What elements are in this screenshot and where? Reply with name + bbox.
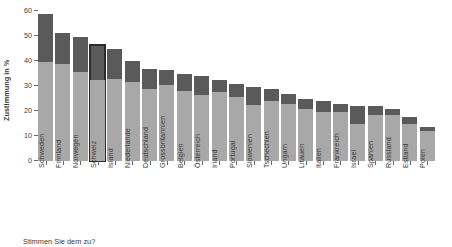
bar-segment-upper <box>350 106 365 124</box>
y-axis-tick: 30 <box>12 81 38 91</box>
y-axis-tick-label: 50 <box>24 31 32 41</box>
bar-segment-upper <box>142 69 157 89</box>
x-axis-tick-label: Niederlande <box>120 128 135 168</box>
plot-area <box>38 0 438 161</box>
x-axis-tick-label: Italien <box>311 148 326 168</box>
x-axis-tick-label: Norwegen <box>68 134 83 168</box>
x-axis-tick-label: Finnland <box>51 140 66 168</box>
x-axis-tick-label: Russland <box>381 137 396 168</box>
x-axis-tick-label: Slowenien <box>242 134 257 168</box>
x-axis-tick-label: Polen <box>415 149 430 168</box>
bar-segment-upper <box>264 89 279 102</box>
x-axis-tick-label: Israel <box>346 150 361 168</box>
x-axis-tick-label: Tschechien <box>259 131 274 168</box>
bar-segment-upper <box>316 101 331 112</box>
x-axis-tick-label: Österreich <box>190 134 205 168</box>
bar-segment-upper <box>73 37 88 72</box>
y-axis-tick: 50 <box>12 31 38 41</box>
bar-segment-upper <box>177 74 192 92</box>
x-axis-tick-label: Litauen <box>294 144 309 168</box>
chart-figure: Zustimmung in % 0102030405060 SchwedenFi… <box>0 0 452 247</box>
x-axis-tick-label: Grossbritannien <box>155 116 170 168</box>
y-axis-tick-label: 30 <box>24 81 32 91</box>
x-axis-tick-label: Frankreich <box>329 133 344 168</box>
bar-segment-upper <box>38 14 53 62</box>
bar-segment-upper <box>55 33 70 64</box>
bar-segment-upper <box>194 76 209 95</box>
x-axis-tick-label: Spanien <box>363 141 378 168</box>
y-axis-tick-label: 40 <box>24 56 32 66</box>
x-axis-labels: SchwedenFinnlandNorwegenSchweizIslandNie… <box>38 161 438 247</box>
bar-segment-upper <box>281 94 296 104</box>
chart-caption: Stimmen Sie dem zu? <box>23 237 95 246</box>
bar-segment-upper <box>159 70 174 85</box>
bar-segment-upper <box>107 49 122 79</box>
x-axis-tick-label: Island <box>103 148 118 168</box>
y-axis-tick-label: 20 <box>24 106 32 116</box>
bar-segment-upper <box>298 99 313 109</box>
x-axis-tick-label: Deutschland <box>138 127 153 168</box>
y-axis-tick-label: 0 <box>28 156 32 166</box>
bar-segment-upper <box>368 106 383 115</box>
x-axis-tick-label: Estland <box>398 143 413 168</box>
y-axis-tick: 20 <box>12 106 38 116</box>
bar-segment-upper <box>90 45 105 80</box>
y-axis-tick: 40 <box>12 56 38 66</box>
bar-segment-upper <box>212 80 227 93</box>
bar-segment-upper <box>246 87 261 105</box>
bar-segment-upper <box>229 84 244 98</box>
y-axis-tick: 60 <box>12 6 38 16</box>
y-axis-tick-label: 60 <box>24 6 32 16</box>
bar-segment-upper <box>333 104 348 113</box>
x-axis-tick-label: Irland <box>207 149 222 168</box>
x-axis-tick-label: Schweiz <box>86 141 101 168</box>
bar-segment-upper <box>125 61 140 82</box>
x-axis-tick-label: Schweden <box>34 134 49 168</box>
x-axis-tick-label: Belgien <box>173 143 188 168</box>
y-axis-tick-label: 10 <box>24 131 32 141</box>
x-axis-tick-label: Ungarn <box>277 144 292 168</box>
x-axis-tick-label: Portugal <box>225 140 240 168</box>
